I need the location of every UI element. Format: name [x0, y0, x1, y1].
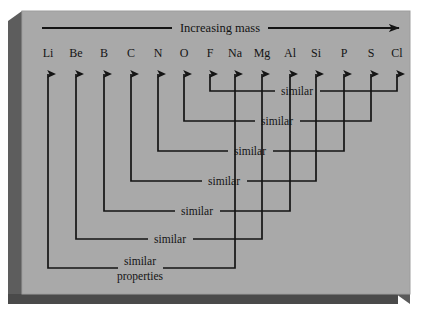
element-label-al: Al	[284, 46, 297, 60]
element-label-na: Na	[228, 46, 243, 60]
element-label-b: B	[100, 46, 108, 60]
element-label-n: N	[154, 46, 163, 60]
periodicity-diagram: Increasing mass Li Be B C N O F Na Mg Al…	[0, 0, 421, 312]
element-label-s: S	[368, 46, 375, 60]
similar-properties-label-line1: similar	[124, 255, 156, 267]
similar-label-f-cl: similar	[281, 85, 313, 97]
element-label-c: C	[127, 46, 135, 60]
similar-properties-label-line2: properties	[117, 270, 164, 283]
panel-shadow-strip	[8, 294, 410, 304]
similar-label-be-mg: similar	[154, 233, 186, 245]
element-label-f: F	[207, 46, 214, 60]
element-label-cl: Cl	[391, 46, 403, 60]
element-label-li: Li	[43, 46, 54, 60]
panel-shadow-left-face	[8, 11, 22, 303]
similar-label-n-p: similar	[234, 145, 266, 157]
element-label-mg: Mg	[254, 46, 271, 60]
diagram-root: Increasing mass Li Be B C N O F Na Mg Al…	[0, 0, 421, 312]
element-label-si: Si	[311, 46, 322, 60]
axis-label-increasing-mass: Increasing mass	[180, 21, 260, 35]
similar-label-o-s: similar	[261, 115, 293, 127]
element-label-o: O	[180, 46, 189, 60]
similar-label-b-al: similar	[181, 205, 213, 217]
element-label-p: P	[341, 46, 348, 60]
element-label-be: Be	[69, 46, 82, 60]
similar-label-c-si: similar	[208, 175, 240, 187]
